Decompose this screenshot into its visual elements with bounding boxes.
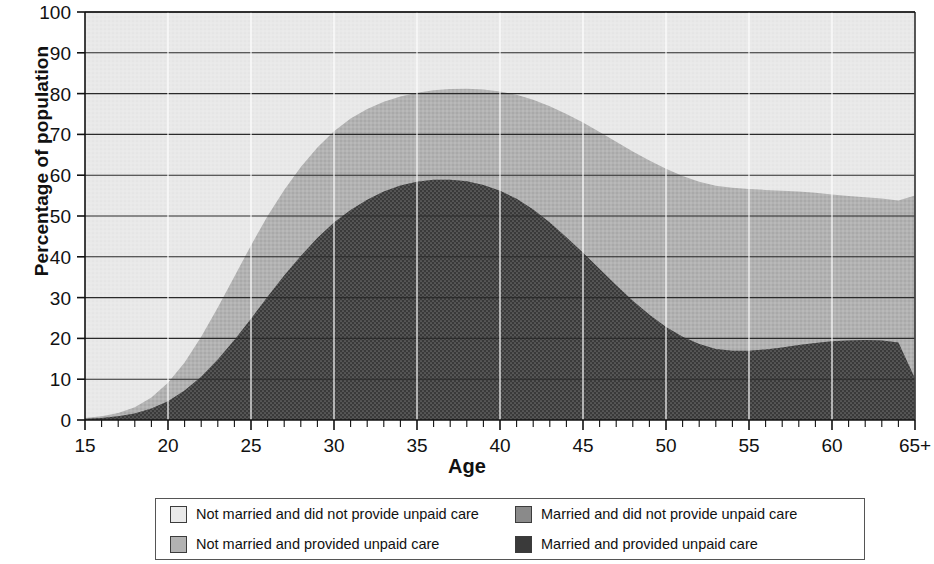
x-axis-tick-label: 45 [572, 435, 593, 456]
y-axis-tick-label: 50 [50, 206, 71, 227]
legend-item-not-married-care: Not married and provided unpaid care [170, 536, 515, 553]
legend-item-married-care: Married and provided unpaid care [515, 536, 880, 553]
x-axis-tick-label: 30 [323, 435, 344, 456]
plot-area: 0102030405060708090100152025303540455055… [39, 2, 931, 456]
legend-swatch-not-married-no-care [170, 506, 187, 523]
x-axis-tick-label: 40 [489, 435, 510, 456]
chart-figure: Percentage of population Age [0, 0, 934, 564]
x-axis-tick-label: 35 [406, 435, 427, 456]
legend-label-not-married-care: Not married and provided unpaid care [196, 537, 439, 552]
y-axis-tick-label: 10 [50, 369, 71, 390]
x-axis-title: Age [0, 455, 934, 478]
x-axis-tick-label: 20 [157, 435, 178, 456]
legend-label-married-care: Married and provided unpaid care [541, 537, 758, 552]
y-axis-tick-label: 80 [50, 84, 71, 105]
x-axis-tick-label: 60 [821, 435, 842, 456]
legend-swatch-not-married-care [170, 536, 187, 553]
x-axis-tick-label: 15 [74, 435, 95, 456]
y-axis-tick-label: 60 [50, 165, 71, 186]
x-axis-tick-label: 25 [240, 435, 261, 456]
x-axis-tick-label: 55 [738, 435, 759, 456]
chart-legend: Not married and did not provide unpaid c… [155, 498, 865, 560]
legend-label-married-no-care: Married and did not provide unpaid care [541, 507, 797, 522]
x-axis-tick-label: 65+ [899, 435, 931, 456]
y-axis-tick-label: 70 [50, 124, 71, 145]
y-axis-tick-label: 40 [50, 247, 71, 268]
legend-item-married-no-care: Married and did not provide unpaid care [515, 506, 880, 523]
x-axis-tick-label: 50 [655, 435, 676, 456]
stacked-area-chart: 0102030405060708090100152025303540455055… [0, 0, 934, 470]
legend-swatch-married-care [515, 536, 532, 553]
y-axis-title: Percentage of population [31, 11, 53, 311]
legend-item-not-married-no-care: Not married and did not provide unpaid c… [170, 506, 515, 523]
legend-label-not-married-no-care: Not married and did not provide unpaid c… [196, 507, 479, 522]
legend-swatch-married-no-care [515, 506, 532, 523]
y-axis-tick-label: 90 [50, 43, 71, 64]
y-axis-tick-label: 20 [50, 328, 71, 349]
y-axis-tick-label: 0 [60, 410, 71, 431]
y-axis-tick-label: 30 [50, 288, 71, 309]
